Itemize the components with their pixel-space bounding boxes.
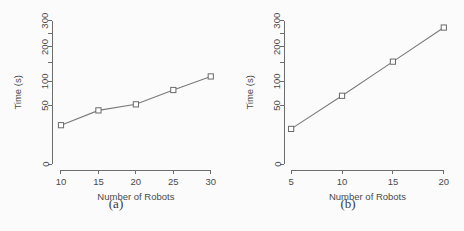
y-tick-label: 0	[40, 161, 51, 166]
x-tick-label: 20	[439, 176, 450, 187]
data-point-marker	[171, 87, 176, 92]
y-tick-label: 100	[272, 73, 283, 89]
chart-panel-a: 050100200300Time (s)1015202530Number of …	[0, 0, 232, 231]
figure-two-panel-line-charts: 050100200300Time (s)1015202530Number of …	[0, 0, 464, 231]
data-point-marker	[441, 25, 446, 30]
panel-caption-a: (a)	[0, 196, 232, 212]
y-axis-title: Time (s)	[245, 75, 256, 109]
y-axis-title: Time (s)	[13, 75, 24, 109]
y-tick-label: 300	[40, 13, 51, 29]
x-tick-label: 15	[93, 176, 104, 187]
data-point-marker	[289, 126, 294, 131]
y-tick-label: 50	[272, 100, 283, 111]
data-point-marker	[208, 74, 213, 79]
panel-caption-b: (b)	[232, 196, 464, 212]
x-tick-label: 5	[288, 176, 293, 187]
x-tick-label: 25	[168, 176, 179, 187]
y-tick-label: 300	[272, 13, 283, 29]
data-point-marker	[339, 93, 344, 98]
series-line	[61, 76, 211, 125]
x-tick-label: 30	[205, 176, 216, 187]
line-chart-b: 050100200300Time (s)5101520Number of Rob…	[232, 0, 464, 200]
y-tick-label: 100	[40, 73, 51, 89]
line-chart-a: 050100200300Time (s)1015202530Number of …	[0, 0, 232, 200]
series-line	[291, 28, 444, 129]
y-tick-label: 200	[40, 39, 51, 55]
data-point-marker	[133, 102, 138, 107]
x-tick-label: 15	[388, 176, 399, 187]
x-tick-label: 20	[131, 176, 142, 187]
x-tick-label: 10	[56, 176, 67, 187]
y-tick-label: 50	[40, 100, 51, 111]
y-tick-label: 0	[272, 161, 283, 166]
data-point-marker	[58, 123, 63, 128]
y-tick-label: 200	[272, 39, 283, 55]
data-point-marker	[96, 108, 101, 113]
chart-panel-b: 050100200300Time (s)5101520Number of Rob…	[232, 0, 464, 231]
x-tick-label: 10	[337, 176, 348, 187]
data-point-marker	[390, 59, 395, 64]
